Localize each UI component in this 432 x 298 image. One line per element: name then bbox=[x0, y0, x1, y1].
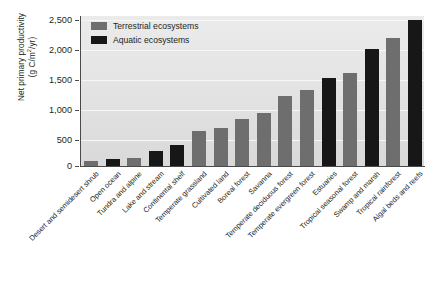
y-tick-mark-2000 bbox=[75, 50, 79, 51]
net-primary-productivity-bar-chart: Net primary productivity (g C/m2/yr) 2,5… bbox=[0, 0, 432, 298]
y-tick-label-0: 0 bbox=[26, 162, 72, 171]
legend-swatch-aquatic-icon bbox=[91, 36, 107, 44]
bar-estuaries[interactable] bbox=[322, 78, 336, 166]
y-tick-label-1000: 1,000 bbox=[26, 106, 72, 115]
bar-savanna[interactable] bbox=[257, 113, 271, 166]
legend-item-aquatic[interactable]: Aquatic ecosystems bbox=[91, 35, 198, 46]
bar-tropical-rainforest[interactable] bbox=[386, 38, 400, 166]
y-tick-mark-1000 bbox=[75, 110, 79, 111]
legend: Terrestrial ecosystems Aquatic ecosystem… bbox=[91, 20, 198, 49]
bar-open-ocean[interactable] bbox=[106, 159, 120, 166]
bar-temperate-evergreen-forest[interactable] bbox=[300, 90, 314, 166]
x-axis-tick-labels: Desert and semidesert shrubOpen oceanTun… bbox=[81, 168, 424, 296]
y-tick-label-1500: 1,500 bbox=[26, 76, 72, 85]
bar-continental-shelf[interactable] bbox=[170, 145, 184, 166]
bar-algal-beds-and-reefs[interactable] bbox=[408, 20, 422, 166]
bar-desert-and-semidesert-shrub[interactable] bbox=[84, 161, 98, 166]
y-axis-title-line1: Net primary productivity bbox=[17, 0, 26, 133]
legend-item-terrestrial[interactable]: Terrestrial ecosystems bbox=[91, 20, 198, 31]
y-tick-label-2500: 2,500 bbox=[26, 16, 72, 25]
bar-tropical-seasonal-forest[interactable] bbox=[343, 73, 357, 166]
legend-label-terrestrial: Terrestrial ecosystems bbox=[113, 21, 198, 31]
bar-temperate-deciduous-forest[interactable] bbox=[278, 96, 292, 166]
y-tick-mark-500 bbox=[75, 140, 79, 141]
bar-tundra-and-alpine[interactable] bbox=[127, 158, 141, 166]
legend-label-aquatic: Aquatic ecosystems bbox=[113, 35, 189, 45]
legend-swatch-terrestrial-icon bbox=[91, 22, 107, 30]
bar-boreal-forest[interactable] bbox=[235, 119, 249, 166]
y-tick-mark-1500 bbox=[75, 80, 79, 81]
y-tick-mark-2500 bbox=[75, 20, 79, 21]
y-tick-label-2000: 2,000 bbox=[26, 46, 72, 55]
bar-cultivated-land[interactable] bbox=[214, 128, 228, 166]
bar-swamp-and-marsh[interactable] bbox=[365, 49, 379, 166]
bar-lake-and-stream[interactable] bbox=[149, 151, 163, 166]
y-tick-label-500: 500 bbox=[26, 136, 72, 145]
bar-temperate-grassland[interactable] bbox=[192, 131, 206, 166]
y-tick-mark-0 bbox=[75, 166, 79, 167]
